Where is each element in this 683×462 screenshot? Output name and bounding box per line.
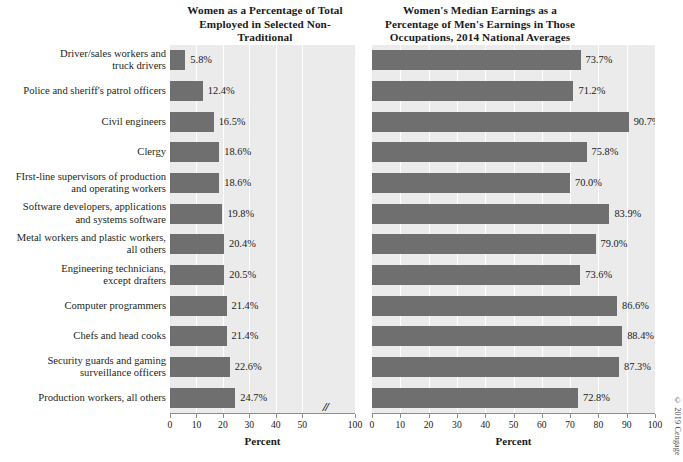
x-axis-left-tick-label-40: 40	[271, 420, 281, 430]
bar-value-label-left-7: 20.5%	[229, 270, 256, 280]
x-axis-title-left: Percent	[170, 435, 355, 447]
bar-value-label-right-6: 79.0%	[601, 239, 628, 249]
bar-right-4	[372, 173, 570, 193]
category-label-5: Software developers, applicationsand sys…	[6, 201, 166, 225]
bar-row: 79.0%	[372, 229, 655, 260]
bar-row: 73.7%	[372, 45, 655, 76]
bar-value-label-left-2: 16.5%	[219, 117, 246, 127]
bar-row: 73.6%	[372, 260, 655, 291]
bar-value-label-left-6: 20.4%	[229, 239, 256, 249]
chart-title-right-line-2: Occupations, 2014 National Averages	[378, 31, 582, 45]
bar-row: 20.4%	[170, 229, 355, 260]
bar-row: 86.6%	[372, 290, 655, 321]
bar-left-0	[170, 50, 185, 70]
category-label-3-line-0: Clergy	[6, 146, 166, 158]
bar-row: 18.6%	[170, 168, 355, 199]
x-axis-left-tick-100	[355, 414, 356, 418]
bar-value-label-right-8: 86.6%	[622, 301, 649, 311]
x-axis-right-tick-40	[485, 414, 486, 418]
bar-row: 72.8%	[372, 382, 655, 413]
bar-row: 20.5%	[170, 260, 355, 291]
bar-row: 75.8%	[372, 137, 655, 168]
bar-row: 21.4%	[170, 321, 355, 352]
x-axis-right-tick-label-40: 40	[480, 420, 490, 430]
bar-value-label-left-4: 18.6%	[224, 178, 251, 188]
bar-value-label-right-4: 70.0%	[575, 178, 602, 188]
category-label-8: Computer programmers	[6, 300, 166, 312]
category-label-0-line-1: truck drivers	[6, 60, 166, 72]
bar-left-4	[170, 173, 219, 193]
bar-right-0	[372, 50, 581, 70]
category-label-2: Civil engineers	[6, 116, 166, 128]
x-axis-right-tick-label-90: 90	[622, 420, 632, 430]
bar-left-8	[170, 296, 227, 316]
bar-value-label-right-11: 72.8%	[583, 393, 610, 403]
category-label-8-line-0: Computer programmers	[6, 300, 166, 312]
x-axis-left-tick-50	[302, 414, 303, 418]
bar-value-label-right-7: 73.6%	[585, 270, 612, 280]
category-label-6-line-1: all others	[6, 244, 166, 256]
bar-right-5	[372, 204, 609, 224]
x-axis-left-tick-label-30: 30	[245, 420, 255, 430]
plot-area-left: 5.8%12.4%16.5%18.6%18.6%19.8%20.4%20.5%2…	[170, 45, 355, 413]
bar-right-10	[372, 357, 619, 377]
bar-right-11	[372, 388, 578, 408]
bar-row: 16.5%	[170, 106, 355, 137]
x-axis-right-tick-label-0: 0	[370, 420, 375, 430]
bar-left-2	[170, 112, 214, 132]
category-label-9-line-0: Chefs and head cooks	[6, 330, 166, 342]
bar-row: 12.4%	[170, 76, 355, 107]
bar-row: 88.4%	[372, 321, 655, 352]
x-axis-left-tick-label-20: 20	[218, 420, 228, 430]
x-axis-right-tick-label-50: 50	[509, 420, 519, 430]
x-axis-right-tick-0	[372, 414, 373, 418]
x-axis-left-tick-label-10: 10	[192, 420, 202, 430]
x-axis-right-tick-90	[627, 414, 628, 418]
category-label-1: Police and sheriff's patrol officers	[6, 85, 166, 97]
x-axis-right-tick-20	[429, 414, 430, 418]
x-axis-right-tick-60	[542, 414, 543, 418]
x-axis-title-right: Percent	[372, 435, 655, 447]
bar-right-9	[372, 326, 622, 346]
x-axis-right-tick-10	[400, 414, 401, 418]
bar-value-label-right-1: 71.2%	[578, 86, 605, 96]
x-axis-right-tick-label-30: 30	[452, 420, 462, 430]
bar-value-label-right-2: 90.7%	[634, 117, 655, 127]
x-axis-right-tick-label-70: 70	[565, 420, 575, 430]
x-axis-left-tick-20	[223, 414, 224, 418]
bar-left-3	[170, 142, 219, 162]
bar-row: 22.6%	[170, 352, 355, 383]
x-axis-right-tick-label-60: 60	[537, 420, 547, 430]
x-axis-right-tick-80	[598, 414, 599, 418]
bar-left-11	[170, 388, 235, 408]
category-label-10: Security guards and gamingsurveillance o…	[6, 355, 166, 379]
bar-row: 71.2%	[372, 76, 655, 107]
bar-right-1	[372, 81, 573, 101]
bar-right-3	[372, 142, 587, 162]
bar-value-label-left-11: 24.7%	[240, 393, 267, 403]
bar-row: 83.9%	[372, 198, 655, 229]
chart-title-left-line-0: Women as a Percentage of Total	[174, 4, 356, 18]
bar-right-7	[372, 265, 580, 285]
bar-left-10	[170, 357, 230, 377]
bar-value-label-right-3: 75.8%	[592, 147, 619, 157]
bar-value-label-left-3: 18.6%	[224, 147, 251, 157]
chart-title-left-line-1: Employed in Selected Non-Traditional	[174, 18, 356, 45]
bar-left-1	[170, 81, 203, 101]
category-label-7: Engineering technicians,except drafters	[6, 263, 166, 287]
category-label-3: Clergy	[6, 146, 166, 158]
bar-row: 87.3%	[372, 352, 655, 383]
x-axis-right-tick-100	[655, 414, 656, 418]
category-label-6: Metal workers and plastic workers,all ot…	[6, 232, 166, 256]
x-axis-left-tick-40	[276, 414, 277, 418]
chart-title-right-line-0: Women's Median Earnings as a	[378, 4, 582, 18]
plot-area-right: 73.7%71.2%90.7%75.8%70.0%83.9%79.0%73.6%…	[372, 45, 655, 413]
x-axis-left-tick-label-50: 50	[297, 420, 307, 430]
category-label-5-line-0: Software developers, applications	[6, 201, 166, 213]
bar-value-label-left-0: 5.8%	[190, 55, 212, 65]
category-label-7-line-0: Engineering technicians,	[6, 263, 166, 275]
category-label-4-line-1: and operating workers	[6, 183, 166, 195]
category-label-9: Chefs and head cooks	[6, 330, 166, 342]
bar-value-label-left-8: 21.4%	[232, 301, 259, 311]
x-axis-right-tick-label-80: 80	[594, 420, 604, 430]
